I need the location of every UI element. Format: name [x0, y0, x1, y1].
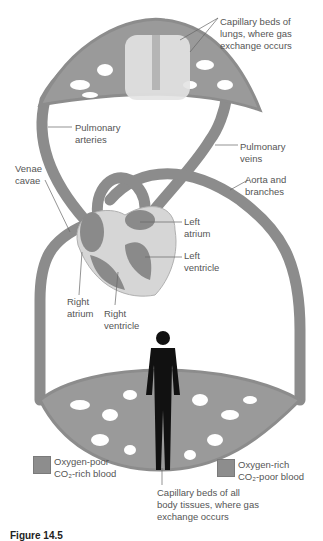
left-atrium-shape — [125, 210, 155, 230]
figure-caption: Figure 14.5 — [10, 530, 63, 541]
label-left-atrium: Left atrium — [184, 216, 210, 240]
legend-label-oxygen-rich: Oxygen-rich CO₂-poor blood — [238, 459, 304, 483]
legend-swatch-oxygen-poor — [33, 456, 51, 474]
label-right-ventricle: Right ventricle — [104, 308, 139, 332]
label-right-atrium: Right atrium — [67, 296, 93, 320]
label-left-ventricle: Left ventricle — [184, 250, 219, 274]
legend-swatch-oxygen-rich — [217, 459, 235, 477]
label-pulmonary-veins: Pulmonary veins — [240, 141, 285, 165]
label-venae-cavae: Venae cavae — [15, 163, 42, 187]
right-atrium-shape — [80, 212, 104, 252]
label-body-capillaries: Capillary beds of all body tissues, wher… — [157, 487, 259, 523]
label-lung-capillaries: Capillary beds of lungs, where gas excha… — [220, 16, 292, 52]
label-aorta: Aorta and branches — [245, 174, 286, 198]
legend-label-oxygen-poor: Oxygen-poor CO₂-rich blood — [54, 456, 116, 480]
label-pulmonary-arteries: Pulmonary arteries — [75, 122, 120, 146]
